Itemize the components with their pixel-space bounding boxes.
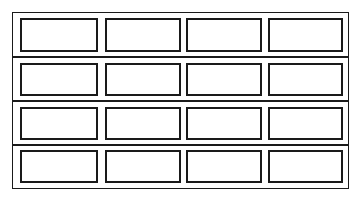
- row-separator-1: [12, 56, 349, 58]
- panel-r4-c4: [268, 150, 343, 183]
- panel-r2-c4: [268, 63, 343, 96]
- panel-r2-c3: [186, 63, 262, 96]
- panel-r3-c2: [105, 107, 181, 140]
- panel-r1-c4: [268, 18, 343, 52]
- row-separator-3: [12, 144, 349, 146]
- panel-r2-c1: [20, 63, 98, 96]
- panel-r3-c1: [20, 107, 98, 140]
- panel-r1-c3: [186, 18, 262, 52]
- panel-r1-c2: [105, 18, 181, 52]
- panel-r3-c4: [268, 107, 343, 140]
- panel-r1-c1: [20, 18, 98, 52]
- row-separator-2: [12, 100, 349, 102]
- panel-r3-c3: [186, 107, 262, 140]
- panel-r4-c3: [186, 150, 262, 183]
- panel-r4-c2: [105, 150, 181, 183]
- panel-r4-c1: [20, 150, 98, 183]
- panel-r2-c2: [105, 63, 181, 96]
